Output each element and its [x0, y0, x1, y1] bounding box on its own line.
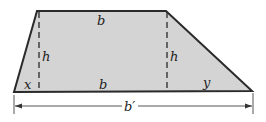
- label-right-segment: y: [202, 75, 211, 90]
- label-top-base: b: [97, 13, 105, 28]
- arrowhead-right-icon: [245, 104, 252, 109]
- arrowhead-left-icon: [15, 104, 22, 109]
- trapezoid-diagram: b b h h x y b′: [0, 0, 266, 122]
- label-bottom-middle: b: [99, 77, 107, 92]
- label-left-segment: x: [24, 77, 32, 92]
- label-right-height: h: [170, 49, 178, 64]
- label-left-height: h: [42, 49, 50, 64]
- label-total-base: b′: [124, 99, 135, 114]
